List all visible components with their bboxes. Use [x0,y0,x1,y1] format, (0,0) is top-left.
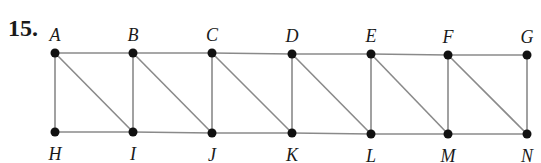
edge-BJ [133,53,212,133]
edge-FN [448,55,527,134]
edge-CK [212,53,292,133]
vertex-L [367,130,376,139]
graph-edges [55,53,527,134]
vertex-label-L: L [365,146,376,163]
vertex-G [523,51,532,60]
vertex-labels: ABCDEFGHIJKLMN [48,25,534,163]
edge-DL [292,54,371,134]
vertex-A [51,49,60,58]
vertex-label-B: B [128,25,139,45]
vertex-H [51,128,60,137]
vertex-C [208,49,217,58]
vertex-label-J: J [208,145,217,163]
vertex-label-I: I [129,144,137,163]
vertex-K [288,129,297,138]
vertex-label-F: F [442,27,455,47]
edge-AI [55,53,133,132]
vertex-E [367,50,376,59]
vertex-B [129,49,138,58]
vertex-I [129,128,138,137]
problem-number: 15. [8,15,38,41]
vertex-label-G: G [521,27,534,47]
vertex-D [288,50,297,59]
edge-EF [371,54,448,55]
vertex-label-A: A [49,25,62,45]
vertex-label-M: M [440,146,457,163]
vertex-J [208,129,217,138]
vertex-M [444,130,453,139]
vertex-label-K: K [285,145,299,163]
vertex-label-H: H [48,144,63,163]
vertex-label-E: E [365,26,377,46]
vertex-label-D: D [285,26,299,46]
graph-vertices [51,49,532,139]
vertex-label-C: C [206,25,219,45]
vertex-F [444,51,453,60]
graph-diagram: 15. ABCDEFGHIJKLMN [0,0,541,163]
edge-IJ [133,132,212,133]
edge-EM [371,54,448,134]
edge-KL [292,133,371,134]
edge-CD [212,53,292,54]
vertex-N [523,130,532,139]
vertex-label-N: N [520,146,534,163]
